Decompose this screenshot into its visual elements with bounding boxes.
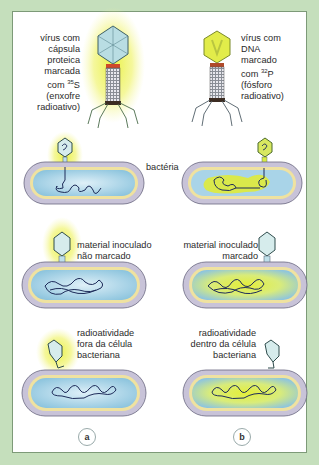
label-line: (fósforo bbox=[241, 80, 284, 91]
label-line-isotope: com 35S bbox=[22, 77, 80, 91]
label-line: material inoculado bbox=[170, 240, 258, 251]
label-line: material inoculado bbox=[77, 240, 152, 251]
label-line: DNA bbox=[241, 44, 284, 55]
label-line: (enxofre bbox=[22, 91, 80, 102]
label-line: cápsula bbox=[22, 44, 80, 55]
left-virus-label: vírus com cápsula proteica marcada com 3… bbox=[22, 33, 80, 113]
label-line: fora da célula bbox=[77, 339, 134, 350]
row1-right-infection bbox=[182, 138, 302, 204]
label-text: com bbox=[47, 80, 67, 90]
label-line: radioativo) bbox=[22, 102, 80, 113]
label-line: marcado bbox=[241, 55, 284, 66]
label-line: vírus com bbox=[22, 33, 80, 44]
bacteria-label: bactéria bbox=[146, 162, 179, 173]
row2-left-infection bbox=[22, 217, 146, 308]
phage-labeled-dna bbox=[192, 31, 242, 126]
right-virus-label: vírus com DNA marcado com 32P (fósforo r… bbox=[241, 33, 284, 102]
label-line: não marcado bbox=[77, 251, 152, 262]
row1-left-infection bbox=[24, 131, 144, 204]
label-line: bacteriana bbox=[77, 350, 134, 361]
label-line: marcada bbox=[22, 66, 80, 77]
label-line: proteica bbox=[22, 55, 80, 66]
isotope-number: 35 bbox=[67, 79, 74, 85]
row3-left-label: radioatividade fora da célula bacteriana bbox=[77, 328, 134, 361]
column-label-a: a bbox=[78, 428, 96, 446]
isotope-element: S bbox=[74, 80, 80, 90]
isotope-element: P bbox=[268, 69, 274, 79]
row2-left-label: material inoculado não marcado bbox=[77, 240, 152, 262]
label-line: radioatividade bbox=[77, 328, 134, 339]
label-line: dentro da célula bbox=[170, 339, 256, 350]
label-line: vírus com bbox=[241, 33, 284, 44]
label-line: marcado bbox=[170, 251, 258, 262]
label-line: radioativo) bbox=[241, 91, 284, 102]
label-line: bacteriana bbox=[170, 350, 256, 361]
isotope-number: 32 bbox=[261, 68, 268, 74]
label-line: radioatividade bbox=[170, 328, 256, 339]
label-text: com bbox=[241, 69, 261, 79]
label-line-isotope: com 32P bbox=[241, 66, 284, 80]
row3-right-label: radioatividade dentro da célula bacteria… bbox=[170, 328, 256, 361]
row2-right-label: material inoculado marcado bbox=[170, 240, 258, 262]
column-label-b: b bbox=[233, 428, 251, 446]
phage-labeled-capsid bbox=[81, 7, 145, 128]
